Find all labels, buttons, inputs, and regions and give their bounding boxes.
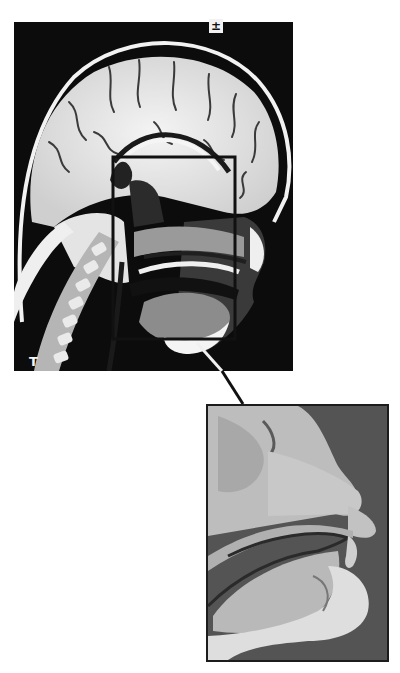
orientation-marker-top: ± [209, 19, 223, 33]
orientation-marker-bottom: T [29, 355, 38, 369]
anatomical-section-photo [206, 404, 389, 662]
photo-drawing [208, 406, 387, 660]
mri-image [14, 22, 293, 371]
mri-drawing [14, 22, 293, 371]
